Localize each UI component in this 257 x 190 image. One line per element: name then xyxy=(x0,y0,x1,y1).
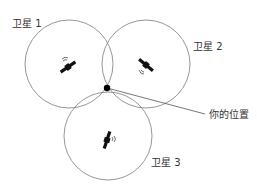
satellite-icon xyxy=(101,131,112,150)
position-label: 你的位置 xyxy=(209,109,249,121)
range-circle-1 xyxy=(25,20,113,108)
signal-icon xyxy=(112,136,116,142)
position-dot xyxy=(104,85,110,91)
signal-icon xyxy=(62,57,68,61)
satellite-label-3: 卫星 3 xyxy=(151,157,181,169)
satellite-label-2: 卫星 2 xyxy=(193,41,223,53)
satellite-icon xyxy=(137,57,155,73)
signal-icon xyxy=(139,70,144,74)
satellite-label-1: 卫星 1 xyxy=(12,18,42,30)
satellite-icon xyxy=(59,59,77,74)
